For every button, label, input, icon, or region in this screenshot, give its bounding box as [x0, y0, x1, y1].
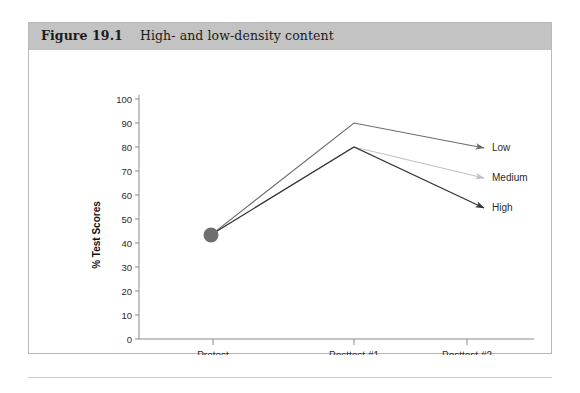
- series-label-high: High: [492, 202, 513, 213]
- series-label-medium: Medium: [492, 172, 528, 183]
- y-tick-label: 10: [121, 310, 132, 321]
- series-line-high: [213, 147, 484, 233]
- figure-box: Figure 19.1High- and low-density content…: [28, 22, 552, 354]
- figure-title: High- and low-density content: [140, 28, 334, 43]
- y-tick-label: 50: [121, 214, 132, 225]
- y-tick-label: 90: [121, 118, 132, 129]
- y-axis-ticks: 100 90 80 70 60 50 40 30 20 10: [116, 94, 139, 345]
- figure-header-bar: Figure 19.1High- and low-density content: [29, 23, 551, 50]
- page-divider-rule: [28, 377, 552, 378]
- figure-number: Figure 19.1: [41, 28, 123, 43]
- x-category-label: Pretest: [197, 350, 229, 355]
- y-tick-label: 60: [121, 190, 132, 201]
- chart-plot-area: % Test Scores 100 90 80 70 60 50 40 30 2…: [29, 50, 551, 355]
- line-chart: % Test Scores 100 90 80 70 60 50 40 30 2…: [29, 50, 553, 355]
- y-axis-title: % Test Scores: [91, 201, 102, 269]
- y-tick-label: 30: [121, 262, 132, 273]
- x-axis-ticks: [213, 339, 467, 345]
- series-line-low: [213, 123, 484, 233]
- y-tick-label: 0: [127, 334, 132, 345]
- y-tick-label: 20: [121, 286, 132, 297]
- figure-caption: Figure 19.1High- and low-density content: [41, 28, 334, 43]
- pretest-data-marker: [204, 228, 219, 243]
- series-label-low: Low: [492, 142, 511, 153]
- series-line-medium: [213, 147, 484, 233]
- x-category-label: Posttest #1: [329, 350, 379, 355]
- y-tick-label: 40: [121, 238, 132, 249]
- y-tick-label: 70: [121, 166, 132, 177]
- x-category-label: Posttest #2: [442, 350, 492, 355]
- y-tick-label: 100: [116, 94, 132, 105]
- y-tick-label: 80: [121, 142, 132, 153]
